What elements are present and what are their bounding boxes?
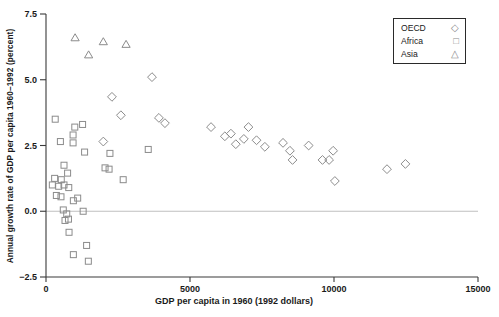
- oecd-data-point: [260, 142, 269, 151]
- oecd-data-point: [231, 140, 240, 149]
- y-tick-label: 7.5: [24, 9, 37, 19]
- oecd-data-point: [207, 123, 216, 132]
- africa-data-point: [107, 150, 113, 156]
- oecd-data-point: [329, 146, 338, 155]
- y-tick-label: 5.0: [24, 75, 37, 85]
- legend-entry-asia: Asia △: [401, 49, 459, 59]
- oecd-data-point: [226, 129, 235, 138]
- oecd-data-point: [279, 138, 288, 147]
- africa-data-point: [120, 177, 126, 183]
- oecd-data-point: [304, 141, 313, 150]
- africa-data-point: [70, 252, 76, 258]
- y-axis-title: Annual growth rate of GDP per capita 196…: [5, 29, 15, 264]
- square-marker-icon: □: [453, 36, 459, 46]
- legend-entry-africa: Africa □: [401, 36, 459, 46]
- asia-data-point: [85, 51, 93, 58]
- asia-data-point: [99, 38, 107, 45]
- africa-data-point: [52, 116, 58, 122]
- triangle-marker-icon: △: [451, 49, 459, 59]
- oecd-data-point: [148, 73, 157, 82]
- y-tick-label: 0.0: [24, 206, 37, 216]
- legend-label-africa: Africa: [401, 36, 423, 46]
- x-tick-label: 15000: [465, 284, 490, 294]
- legend-box: OECD ◇ Africa □ Asia △: [393, 18, 466, 64]
- legend-entry-oecd: OECD ◇: [401, 23, 459, 33]
- oecd-data-point: [108, 92, 117, 101]
- africa-data-point: [61, 162, 67, 168]
- x-tick-label: 5000: [180, 284, 200, 294]
- oecd-data-point: [286, 146, 295, 155]
- oecd-data-point: [99, 137, 108, 146]
- asia-data-point: [71, 34, 79, 41]
- x-axis-title: GDP per capita in 1960 (1992 dollars): [155, 296, 313, 306]
- africa-data-point: [66, 229, 72, 235]
- oecd-data-point: [154, 113, 163, 122]
- oecd-data-point: [116, 111, 125, 120]
- oecd-data-point: [383, 165, 392, 174]
- africa-data-point: [85, 258, 91, 264]
- diamond-marker-icon: ◇: [451, 23, 459, 33]
- asia-data-point: [122, 40, 130, 47]
- oecd-data-point: [318, 156, 327, 165]
- oecd-data-point: [244, 123, 253, 132]
- legend-label-asia: Asia: [401, 49, 418, 59]
- africa-data-point: [49, 182, 55, 188]
- africa-data-point: [145, 146, 151, 152]
- africa-data-point: [70, 132, 76, 138]
- africa-data-point: [52, 175, 58, 181]
- oecd-data-point: [239, 135, 248, 144]
- y-tick-label: −2.5: [19, 272, 37, 282]
- y-tick-label: 2.5: [24, 141, 37, 151]
- africa-data-point: [80, 121, 86, 127]
- africa-data-point: [82, 149, 88, 155]
- africa-data-point: [84, 242, 90, 248]
- africa-data-point: [72, 124, 78, 130]
- africa-data-point: [70, 140, 76, 146]
- oecd-data-point: [252, 136, 261, 145]
- oecd-data-point: [401, 160, 410, 169]
- oecd-data-point: [220, 132, 229, 141]
- africa-data-point: [65, 170, 71, 176]
- oecd-data-point: [288, 156, 297, 165]
- legend-label-oecd: OECD: [401, 23, 426, 33]
- oecd-data-point: [330, 177, 339, 186]
- oecd-data-point: [325, 156, 334, 165]
- oecd-data-point: [161, 119, 170, 128]
- x-tick-label: 10000: [321, 284, 346, 294]
- growth-vs-initial-gdp-scatter-figure: 7.55.02.50.0−2.5050001000015000 Annual g…: [0, 0, 499, 317]
- africa-data-point: [57, 139, 63, 145]
- x-tick-label: 0: [43, 284, 48, 294]
